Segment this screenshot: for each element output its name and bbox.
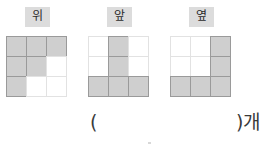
grid-cell-empty[interactable] xyxy=(128,56,149,77)
grid-cell-filled[interactable] xyxy=(6,56,27,77)
view-label-wrap-top: 위 xyxy=(6,6,68,28)
answer-paren-close-unit: )개 xyxy=(236,110,260,134)
grid-cell-filled[interactable] xyxy=(6,36,27,57)
grid-cell-filled[interactable] xyxy=(46,36,67,57)
grid-cell-empty[interactable] xyxy=(170,56,191,77)
grid-cell-filled[interactable] xyxy=(6,76,27,97)
grid-cell-filled[interactable] xyxy=(26,36,47,57)
grid-cell-filled[interactable] xyxy=(210,76,231,97)
worksheet-page: 위 앞 옆 ( )개 xyxy=(0,0,269,152)
view-grid-top xyxy=(6,36,66,96)
view-label-front: 앞 xyxy=(107,7,132,27)
answer-paren-open: ( xyxy=(90,110,97,134)
grid-cell-filled[interactable] xyxy=(170,76,191,97)
view-block-top: 위 xyxy=(6,6,68,96)
grid-cell-empty[interactable] xyxy=(170,36,191,57)
grid-cell-empty[interactable] xyxy=(88,56,109,77)
view-label-wrap-front: 앞 xyxy=(88,6,150,28)
grid-cell-empty[interactable] xyxy=(190,36,211,57)
grid-cell-filled[interactable] xyxy=(108,36,129,57)
grid-cell-filled[interactable] xyxy=(210,36,231,57)
grid-cell-empty[interactable] xyxy=(190,56,211,77)
view-grid-side xyxy=(170,36,230,96)
grid-cell-filled[interactable] xyxy=(128,76,149,97)
grid-cell-empty[interactable] xyxy=(46,56,67,77)
answer-line: ( )개 xyxy=(0,108,269,138)
orthographic-views-row: 위 앞 옆 xyxy=(0,0,269,104)
grid-cell-empty[interactable] xyxy=(88,36,109,57)
view-label-wrap-side: 옆 xyxy=(170,6,232,28)
page-speck-mark xyxy=(148,142,151,144)
grid-cell-empty[interactable] xyxy=(46,76,67,97)
view-label-side: 옆 xyxy=(189,7,214,27)
grid-cell-filled[interactable] xyxy=(26,56,47,77)
grid-cell-filled[interactable] xyxy=(210,56,231,77)
grid-cell-empty[interactable] xyxy=(128,36,149,57)
grid-cell-filled[interactable] xyxy=(108,56,129,77)
grid-cell-filled[interactable] xyxy=(88,76,109,97)
grid-cell-filled[interactable] xyxy=(108,76,129,97)
grid-cell-filled[interactable] xyxy=(190,76,211,97)
answer-blank-field[interactable] xyxy=(100,112,234,134)
view-block-front: 앞 xyxy=(88,6,150,96)
view-block-side: 옆 xyxy=(170,6,232,96)
view-grid-front xyxy=(88,36,148,96)
view-label-top: 위 xyxy=(25,7,50,27)
grid-cell-empty[interactable] xyxy=(26,76,47,97)
